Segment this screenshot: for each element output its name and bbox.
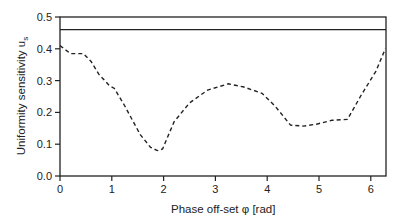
x-tick-label: 1 [109,183,115,195]
x-tick-label: 2 [161,183,167,195]
plot-frame [60,17,386,176]
x-tick-label: 4 [264,183,270,195]
y-axis-label: Uniformity sensitivity us [15,37,30,155]
y-tick-label: 0.1 [37,138,52,150]
y-tick-label: 0.3 [37,75,52,87]
y-tick-label: 0.4 [37,43,52,55]
x-axis-label: Phase off-set φ [rad] [171,203,275,215]
x-axis-ticks: 0123456 [57,176,374,195]
x-tick-label: 3 [212,183,218,195]
y-tick-label: 0.0 [37,170,52,182]
dashed-curve [60,46,385,151]
x-tick-label: 6 [368,183,374,195]
axes-box [60,17,386,176]
x-tick-label: 5 [316,183,322,195]
y-axis-ticks: 0.00.10.20.30.40.5 [37,11,60,182]
data-series [60,46,385,151]
x-tick-label: 0 [57,183,63,195]
y-tick-label: 0.2 [37,106,52,118]
line-chart: 0123456 0.00.10.20.30.40.5 Phase off-set… [0,0,399,220]
y-tick-label: 0.5 [37,11,52,23]
